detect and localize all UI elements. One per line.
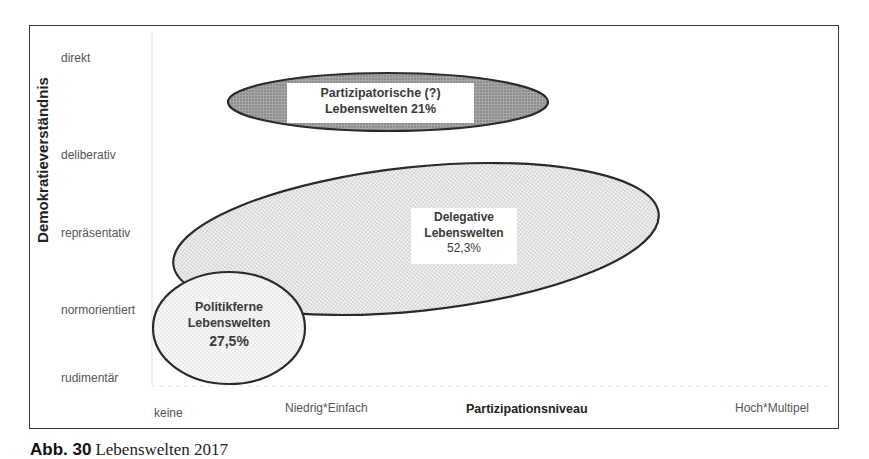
y-tick-rudimentaer: rudimentär — [61, 371, 118, 385]
delegative-line1: Delegative — [411, 210, 517, 226]
caption-number: Abb. 30 — [30, 440, 91, 459]
politikferne-line2: Lebenswelten — [174, 316, 284, 332]
delegative-share: 52,3% — [411, 241, 517, 257]
x-tick-niedrig: Niedrig*Einfach — [285, 401, 368, 415]
x-tick-hoch: Hoch*Multipel — [735, 401, 809, 415]
caption-text: Lebenswelten 2017 — [95, 440, 228, 459]
x-tick-keine: keine — [154, 406, 183, 420]
figure-caption: Abb. 30Lebenswelten 2017 — [30, 440, 228, 459]
politikferne-share: 27,5% — [174, 333, 284, 351]
y-axis-title: Demokratieverständnis — [34, 77, 51, 243]
delegative-line2: Lebenswelten — [411, 226, 517, 242]
y-tick-deliberativ: deliberativ — [61, 148, 116, 162]
x-axis-title: Partizipationsniveau — [466, 402, 588, 416]
label-participatory: Partizipatorische (?) Lebenswelten 21% — [287, 86, 474, 117]
y-tick-normorientiert: normorientiert — [61, 303, 135, 317]
participatory-line1: Partizipatorische (?) — [287, 86, 474, 102]
label-delegative: Delegative Lebenswelten 52,3% — [411, 210, 517, 257]
participatory-line2: Lebenswelten 21% — [287, 102, 474, 118]
y-tick-repraesentativ: repräsentativ — [61, 226, 130, 240]
y-tick-direkt: direkt — [61, 51, 90, 65]
label-politikferne: Politikferne Lebenswelten 27,5% — [174, 300, 284, 351]
politikferne-line1: Politikferne — [174, 300, 284, 316]
